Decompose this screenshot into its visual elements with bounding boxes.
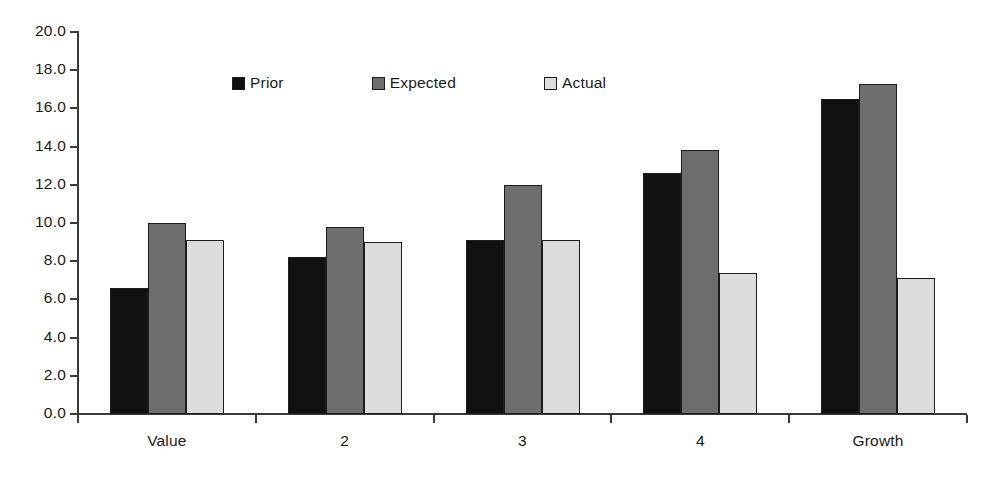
y-axis-tick-label: 0.0	[4, 404, 66, 422]
bar-prior-value	[110, 288, 148, 414]
bar-actual-3	[542, 240, 580, 414]
y-axis-tick	[70, 107, 78, 109]
bar-actual-4	[719, 273, 757, 414]
y-axis-tick	[70, 222, 78, 224]
legend-label: Actual	[562, 74, 606, 92]
y-axis-tick-label: 6.0	[4, 289, 66, 307]
y-axis-tick-label: 2.0	[4, 366, 66, 384]
bar-actual-2	[364, 242, 402, 414]
y-axis-tick-label-wrap: 6.0	[0, 289, 66, 307]
bar-actual-value	[186, 240, 224, 414]
y-axis-tick-label: 10.0	[4, 213, 66, 231]
y-axis-tick	[70, 69, 78, 71]
x-axis-tick	[77, 415, 79, 423]
bar-prior-4	[643, 173, 681, 414]
bar-prior-3	[466, 240, 504, 414]
bar-expected-growth	[859, 84, 897, 414]
y-axis-tick-label: 8.0	[4, 251, 66, 269]
x-axis-category-label: 2	[285, 432, 405, 450]
x-axis-tick	[610, 415, 612, 423]
x-axis-tick	[255, 415, 257, 423]
y-axis-tick-label-wrap: 20.0	[0, 22, 66, 40]
y-axis-tick-label: 4.0	[4, 328, 66, 346]
y-axis-tick-label-wrap: 12.0	[0, 175, 66, 193]
bar-expected-2	[326, 227, 364, 414]
y-axis-tick	[70, 375, 78, 377]
chart-legend: PriorExpectedActual	[232, 74, 606, 92]
y-axis-tick	[70, 260, 78, 262]
y-axis-tick-label-wrap: 2.0	[0, 366, 66, 384]
y-axis-tick-label-wrap: 18.0	[0, 60, 66, 78]
y-axis-tick-label: 12.0	[4, 175, 66, 193]
x-axis-tick	[433, 415, 435, 423]
bar-prior-2	[288, 257, 326, 414]
legend-swatch-icon	[372, 77, 385, 90]
bar-expected-value	[148, 223, 186, 414]
y-axis-tick-label-wrap: 4.0	[0, 328, 66, 346]
y-axis-tick-label: 20.0	[4, 22, 66, 40]
y-axis-tick	[70, 184, 78, 186]
bar-expected-4	[681, 150, 719, 414]
legend-item-expected: Expected	[372, 74, 456, 92]
legend-label: Prior	[250, 74, 284, 92]
x-axis-category-label: 4	[640, 432, 760, 450]
plot-area: 0.02.04.06.08.010.012.014.016.018.020.0 …	[0, 0, 999, 478]
x-axis-category-label: Growth	[818, 432, 938, 450]
legend-swatch-icon	[544, 77, 557, 90]
y-axis-tick-label: 18.0	[4, 60, 66, 78]
legend-label: Expected	[390, 74, 456, 92]
legend-swatch-icon	[232, 77, 245, 90]
bar-prior-growth	[821, 99, 859, 414]
y-axis-tick-label: 14.0	[4, 137, 66, 155]
y-axis-tick	[70, 146, 78, 148]
x-axis-tick	[788, 415, 790, 423]
y-axis-tick-label-wrap: 0.0	[0, 404, 66, 422]
legend-item-prior: Prior	[232, 74, 284, 92]
y-axis-tick	[70, 31, 78, 33]
y-axis-tick	[70, 298, 78, 300]
x-axis-tick	[966, 415, 968, 423]
x-axis-category-label: Value	[107, 432, 227, 450]
x-axis-category-label: 3	[463, 432, 583, 450]
y-axis-tick-label: 16.0	[4, 98, 66, 116]
legend-item-actual: Actual	[544, 74, 606, 92]
bar-actual-growth	[897, 278, 935, 414]
y-axis-tick	[70, 337, 78, 339]
bar-expected-3	[504, 185, 542, 414]
y-axis-tick-label-wrap: 14.0	[0, 137, 66, 155]
y-axis-tick-label-wrap: 10.0	[0, 213, 66, 231]
bar-chart: 0.02.04.06.08.010.012.014.016.018.020.0 …	[0, 0, 999, 478]
y-axis-tick-label-wrap: 16.0	[0, 98, 66, 116]
y-axis-tick-label-wrap: 8.0	[0, 251, 66, 269]
